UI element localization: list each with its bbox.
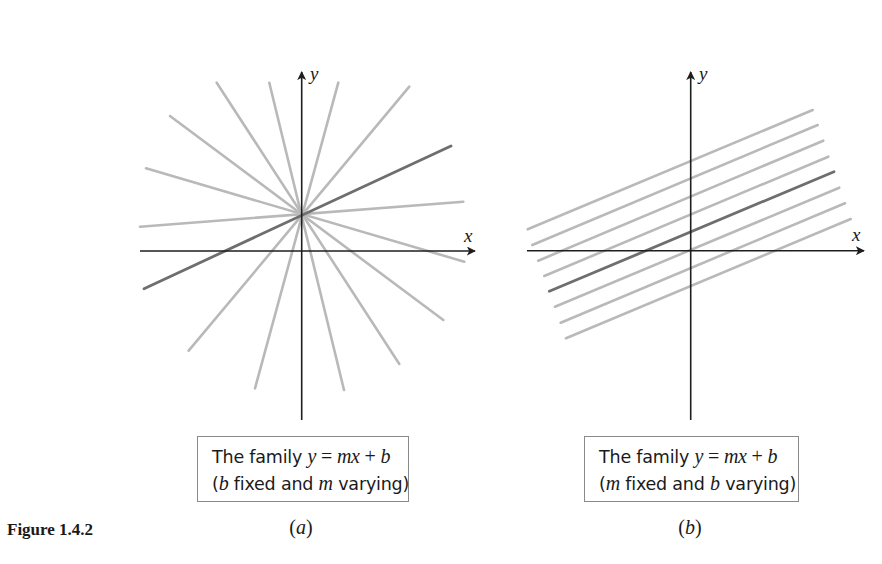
caption-var: b	[219, 472, 229, 494]
panel-a-y-axis-label: y	[308, 63, 319, 84]
label-paren: (	[678, 516, 685, 538]
panel-b-family-lines	[528, 110, 851, 338]
family-line	[528, 110, 813, 229]
caption-var-mx: mx	[724, 445, 747, 467]
panel-a-caption-line1: The family y = mx + b	[212, 443, 396, 470]
caption-text: The family	[599, 447, 695, 467]
caption-var: m	[606, 472, 620, 494]
caption-var-y: y	[695, 445, 704, 467]
panel-b-x-axis-label: x	[851, 224, 861, 245]
caption-plus: +	[747, 445, 768, 467]
panel-b-graph: x y	[527, 63, 864, 420]
family-line	[532, 125, 817, 245]
family-line	[255, 83, 338, 389]
figure-number: Figure 1.4.2	[7, 520, 93, 540]
panel-b-y-axis-label: y	[697, 63, 708, 84]
family-line	[170, 116, 443, 320]
caption-text: fixed and	[228, 474, 318, 494]
caption-var-b: b	[767, 445, 777, 467]
caption-plus: +	[360, 445, 381, 467]
panel-b-highlighted-line	[549, 172, 834, 292]
caption-equals: =	[703, 445, 724, 467]
caption-equals: =	[316, 445, 337, 467]
caption-var-y: y	[308, 445, 317, 467]
panel-a-x-axis-label: x	[463, 225, 473, 246]
family-line	[566, 219, 851, 338]
caption-text: (	[599, 474, 606, 494]
label-paren: )	[695, 516, 702, 538]
caption-text: fixed and	[620, 474, 710, 494]
label-letter: b	[685, 516, 695, 538]
family-line	[555, 188, 839, 307]
family-line	[538, 141, 823, 261]
family-line	[561, 203, 845, 322]
caption-var-mx: mx	[337, 445, 360, 467]
panel-b-caption-line1: The family y = mx + b	[599, 443, 786, 470]
panel-a-highlighted-line	[144, 146, 451, 289]
panel-b-caption-box: The family y = mx + b (m fixed and b var…	[584, 436, 799, 502]
label-paren: )	[306, 516, 313, 538]
family-line	[217, 83, 400, 364]
caption-text: (	[212, 474, 219, 494]
label-paren: (	[289, 516, 296, 538]
panel-a-caption-box: The family y = mx + b (b fixed and m var…	[197, 436, 409, 502]
caption-text: varying)	[333, 474, 409, 494]
panel-a-label: (a)	[289, 516, 312, 539]
panel-b-caption-line2: (m fixed and b varying)	[599, 470, 786, 497]
caption-var: b	[710, 472, 720, 494]
caption-var: m	[319, 472, 333, 494]
panel-b-label: (b)	[678, 516, 701, 539]
family-line	[544, 157, 828, 276]
panel-a-graph: x y	[140, 63, 475, 420]
label-letter: a	[296, 516, 306, 538]
caption-text: The family	[212, 447, 308, 467]
family-line	[189, 87, 410, 351]
caption-var-b: b	[380, 445, 390, 467]
panel-a-caption-line2: (b fixed and m varying)	[212, 470, 396, 497]
caption-text: varying)	[720, 474, 796, 494]
